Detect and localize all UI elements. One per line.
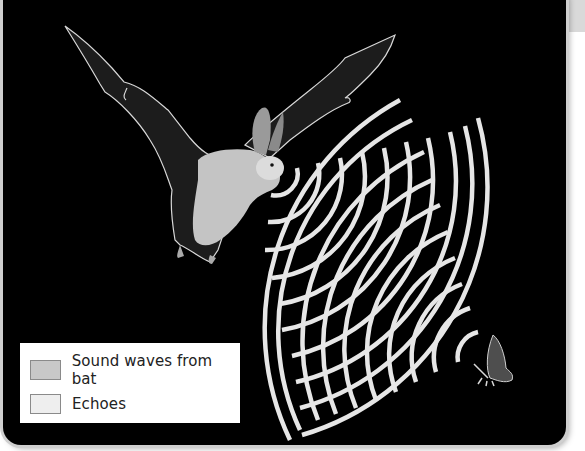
sound-waves xyxy=(265,118,488,435)
legend: Sound waves from bat Echoes xyxy=(20,343,240,423)
legend-item-echoes: Echoes xyxy=(30,394,126,414)
moth-illustration xyxy=(474,335,513,386)
bat-illustration xyxy=(65,26,395,264)
legend-label: Echoes xyxy=(72,395,126,413)
echoes-swatch xyxy=(30,394,61,414)
legend-label: Sound waves from bat xyxy=(72,352,240,388)
legend-item-sound-waves: Sound waves from bat xyxy=(30,352,240,388)
sound-waves-swatch xyxy=(30,360,61,380)
echo-waves xyxy=(265,100,478,440)
